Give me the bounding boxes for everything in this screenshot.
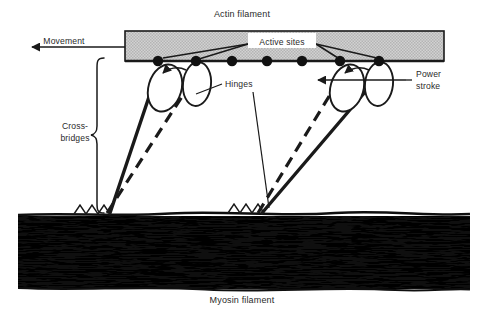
active-site-dot <box>262 56 272 66</box>
active-site-dot <box>153 56 163 66</box>
myosin-filament <box>18 212 470 290</box>
myosin-filament-title: Myosin filament <box>210 295 275 305</box>
active-site-dot <box>191 56 201 66</box>
actin-filament-title: Actin filament <box>214 9 270 19</box>
active-site-dot <box>227 56 237 66</box>
movement-label: Movement <box>43 36 85 46</box>
myosin-fiber-texture-c <box>18 214 470 290</box>
active-site-dot <box>297 56 307 66</box>
power-stroke-label-line1: Power <box>416 69 441 79</box>
cross-bridges-label-line1: Cross- <box>62 121 88 131</box>
diagram-canvas: Actin filament Myosin filament Movement … <box>0 0 484 314</box>
hinges-label: Hinges <box>225 79 253 89</box>
active-sites-label: Active sites <box>259 37 304 47</box>
cross-bridges-label-line2: bridges <box>60 133 89 143</box>
power-stroke-label-line2: stroke <box>416 81 440 91</box>
